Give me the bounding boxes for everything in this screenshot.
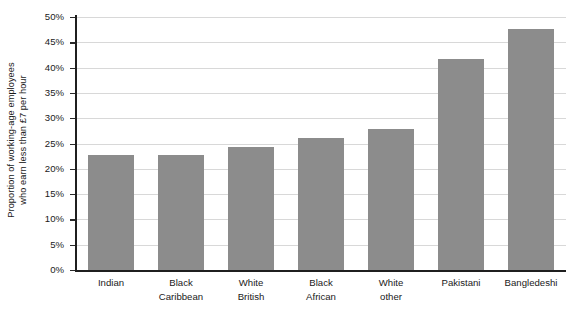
bar-black-caribbean <box>158 155 204 270</box>
y-tick-label-35: 35% <box>4 88 64 98</box>
y-tick-label-5: 5% <box>4 240 64 250</box>
y-tick-label-15: 15% <box>4 189 64 199</box>
x-label-black-caribbean-line-1: Black <box>146 276 216 290</box>
y-tick-label-45: 45% <box>4 37 64 47</box>
y-tick-label-40: 40% <box>4 63 64 73</box>
bar-slot-indian <box>76 0 146 272</box>
x-label-bangledeshi: Bangledeshi <box>496 276 566 290</box>
x-label-white-other-line-2: other <box>356 290 426 304</box>
bar-slot-bangledeshi <box>496 0 566 272</box>
bar-slot-black-caribbean <box>146 0 216 272</box>
y-tick-label-20: 20% <box>4 164 64 174</box>
bar-black-african <box>298 138 344 270</box>
x-label-indian: Indian <box>76 276 146 290</box>
x-axis-labels: Indian Black Caribbean White British Bla… <box>76 276 566 314</box>
x-label-bangledeshi-line-1: Bangledeshi <box>496 276 566 290</box>
y-tick-label-50: 50% <box>4 12 64 22</box>
x-label-white-british-line-2: British <box>216 290 286 304</box>
bar-slot-pakistani <box>426 0 496 272</box>
bar-slot-white-british <box>216 0 286 272</box>
x-label-white-other: White other <box>356 276 426 303</box>
bar-slot-white-other <box>356 0 426 272</box>
bar-bangledeshi <box>508 29 554 270</box>
x-label-black-caribbean: Black Caribbean <box>146 276 216 303</box>
bar-white-british <box>228 147 274 270</box>
x-label-pakistani-line-1: Pakistani <box>426 276 496 290</box>
x-label-black-african-line-1: Black <box>286 276 356 290</box>
bar-white-other <box>368 129 414 270</box>
x-label-indian-line-1: Indian <box>76 276 146 290</box>
x-label-black-caribbean-line-2: Caribbean <box>146 290 216 304</box>
y-tick-label-10: 10% <box>4 214 64 224</box>
x-label-pakistani: Pakistani <box>426 276 496 290</box>
x-label-white-other-line-1: White <box>356 276 426 290</box>
x-label-white-british-line-1: White <box>216 276 286 290</box>
bar-pakistani <box>438 59 484 271</box>
y-tick-label-30: 30% <box>4 113 64 123</box>
bars-group <box>76 0 566 272</box>
y-tick-label-25: 25% <box>4 139 64 149</box>
bar-chart: Proportion of working-age employees who … <box>0 0 576 314</box>
x-label-black-african: Black African <box>286 276 356 303</box>
bar-slot-black-african <box>286 0 356 272</box>
bar-indian <box>88 155 134 270</box>
x-label-black-african-line-2: African <box>286 290 356 304</box>
x-label-white-british: White British <box>216 276 286 303</box>
y-tick-label-0: 0% <box>4 265 64 275</box>
y-axis-ticks: 50% 45% 40% 35% 30% 25% 20% 15% 10% 5% 0… <box>0 0 72 314</box>
